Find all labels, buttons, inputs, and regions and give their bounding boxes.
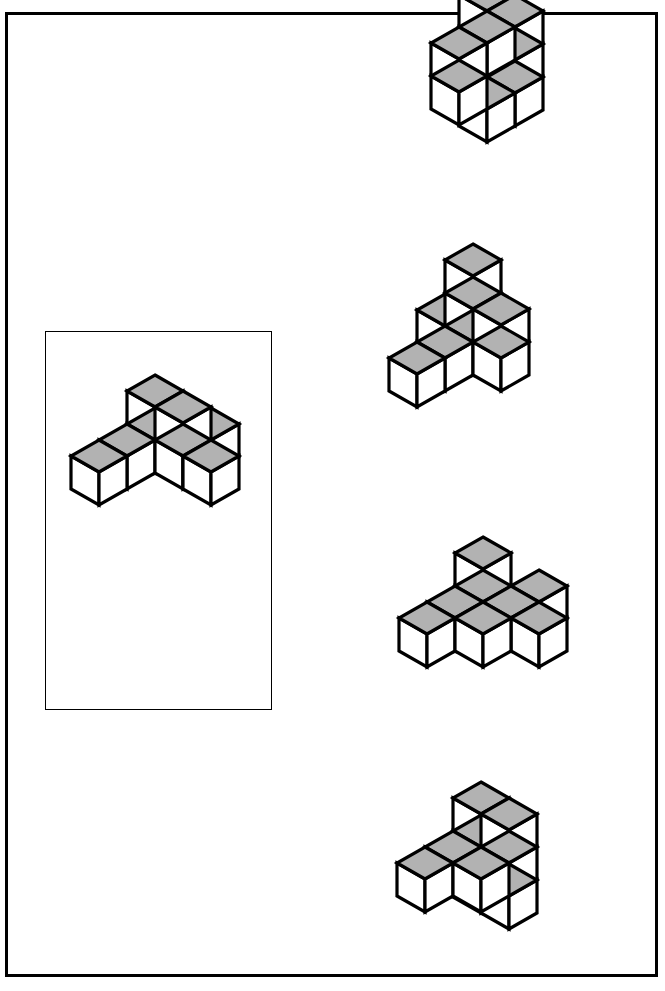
cube <box>511 602 567 667</box>
cube <box>389 342 445 407</box>
option-figure-c[interactable] <box>395 533 571 671</box>
cube <box>455 602 511 667</box>
cube <box>473 326 529 391</box>
option-figure-c-canvas <box>395 533 571 671</box>
page-root <box>0 0 665 991</box>
option-figure-b-canvas <box>385 240 533 411</box>
cube <box>431 60 487 125</box>
option-figure-d[interactable] <box>393 778 541 933</box>
cube <box>453 847 509 912</box>
option-figure-a-canvas <box>427 0 547 146</box>
cube <box>71 440 127 505</box>
option-figure-b[interactable] <box>385 240 533 411</box>
cube <box>399 602 455 667</box>
option-figure-d-canvas <box>393 778 541 933</box>
cube <box>397 847 453 912</box>
reference-figure-canvas <box>67 371 243 509</box>
cube <box>183 440 239 505</box>
option-figure-a[interactable] <box>427 0 547 146</box>
outer-frame-border <box>5 12 658 977</box>
reference-figure <box>67 371 243 509</box>
